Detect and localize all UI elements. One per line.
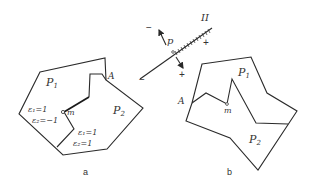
figure-a-left-eq-2: ε₂=−1 <box>32 116 58 125</box>
figure-b-label-m: m <box>224 106 232 115</box>
figure-a: P1 P2 A m ε₁=1 ε₂=−1 ε₁=1 ε₂=1 a <box>19 58 143 177</box>
figure-b-label-p2: P2 <box>248 133 261 147</box>
figure-a-point-m-marker <box>61 110 64 113</box>
label-point-p: p <box>167 35 174 46</box>
figure-a-label-p2: P2 <box>112 104 125 118</box>
label-line-II: II <box>200 12 210 23</box>
figure-a-right-eq-2: ε₂=1 <box>73 139 92 148</box>
figure-a-label-m: m <box>67 108 75 117</box>
label-minus-lower: − <box>139 74 145 85</box>
label-minus-upper: − <box>146 22 152 33</box>
figure-b-boundary-path <box>192 79 288 124</box>
figure-a-label-p1: P1 <box>45 76 58 90</box>
figure-a-boundary-path <box>89 74 106 97</box>
point-p-marker <box>172 51 175 54</box>
figure-a-label-A: A <box>107 71 115 81</box>
figure-a-left-eq-1: ε₁=1 <box>28 105 47 114</box>
figure-b-label-p1: P1 <box>237 66 250 80</box>
arrow-plus-direction <box>176 57 183 68</box>
figure-a-caption: a <box>83 167 88 177</box>
label-plus-upper: + <box>203 37 209 48</box>
figure-a-boundary-path-lower <box>57 112 74 147</box>
figure-b: P1 P2 A m b <box>177 57 297 177</box>
figure-b-label-A: A <box>177 96 185 106</box>
line-figure: II p − + + − <box>139 12 212 85</box>
figure-a-right-eq-1: ε₁=1 <box>78 128 97 137</box>
arrow-minus-direction <box>159 30 166 45</box>
label-plus-lower: + <box>179 69 185 80</box>
diagram-canvas: P1 P2 A m ε₁=1 ε₂=−1 ε₁=1 ε₂=1 a II <box>0 0 315 188</box>
figure-b-point-m-marker <box>226 103 229 106</box>
figure-b-caption: b <box>227 167 232 177</box>
